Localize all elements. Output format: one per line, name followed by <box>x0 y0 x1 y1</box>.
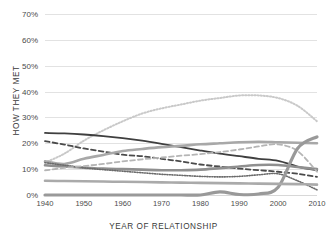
y-axis-tick-label: 20% <box>10 139 38 148</box>
y-axis-tick-label: 70% <box>10 10 38 19</box>
series-lines <box>45 14 317 195</box>
x-axis-tick-label: 1940 <box>37 199 54 208</box>
series-line <box>45 95 317 163</box>
y-axis-tick-label: 60% <box>10 35 38 44</box>
x-axis-tick-labels: 19401950196019701980199020002010 <box>0 199 327 211</box>
x-axis-tick-label: 1990 <box>231 199 248 208</box>
y-axis-tick-label: 30% <box>10 113 38 122</box>
x-axis-tick-label: 1980 <box>192 199 209 208</box>
y-axis-tick-labels: 0%10%20%30%40%50%60%70% <box>8 0 38 231</box>
x-axis-title: YEAR OF RELATIONSHIP <box>0 222 327 231</box>
y-axis-tick-label: 50% <box>10 61 38 70</box>
x-axis-tick-label: 2000 <box>270 199 287 208</box>
x-axis-tick-label: 2010 <box>309 199 326 208</box>
plot-area <box>45 14 317 195</box>
y-axis-tick-label: 40% <box>10 87 38 96</box>
x-axis-tick-label: 1950 <box>75 199 92 208</box>
y-axis-tick-label: 10% <box>10 165 38 174</box>
x-axis-tick-label: 1960 <box>114 199 131 208</box>
x-axis-tick-label: 1970 <box>153 199 170 208</box>
line-chart: HOW THEY MET 0%10%20%30%40%50%60%70% 194… <box>0 0 327 231</box>
series-line <box>45 181 317 185</box>
